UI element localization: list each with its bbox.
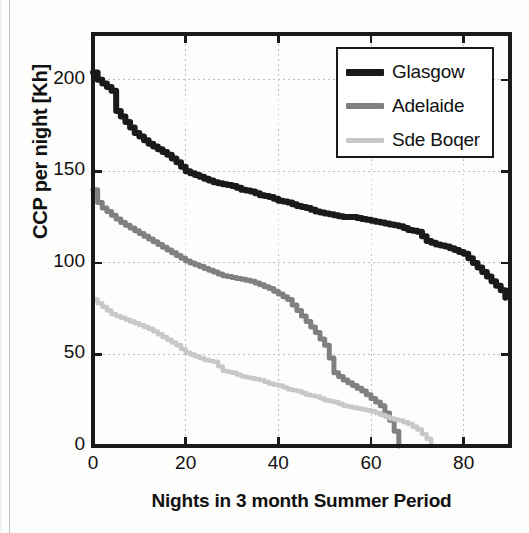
x-tick-label: 80 [439,452,489,474]
chart-legend: Glasgow Adelaide Sde Boqer [336,47,494,158]
legend-label-glasgow: Glasgow [392,61,465,83]
y-tick-label: 50 [64,341,85,363]
x-tick-label: 60 [346,452,396,474]
y-tick-label: 150 [53,158,85,180]
legend-swatch-sde-boqer [346,138,384,143]
x-tick-label: 0 [68,452,118,474]
x-tick-label: 20 [161,452,211,474]
x-tick-label: 40 [253,452,303,474]
legend-label-sde-boqer: Sde Boqer [392,129,480,151]
figure-root: 050100150200 020406080 CCP per night [Kh… [0,0,529,533]
legend-item-glasgow: Glasgow [346,57,488,87]
legend-item-sde-boqer: Sde Boqer [346,125,488,155]
legend-swatch-adelaide [346,103,384,109]
chart-figure: 050100150200 020406080 CCP per night [Kh… [0,0,529,533]
x-axis-title: Nights in 3 month Summer Period [93,490,510,512]
y-tick-label: 200 [53,67,85,89]
series-sde-boqer [93,300,431,446]
legend-label-adelaide: Adelaide [392,95,464,117]
legend-item-adelaide: Adelaide [346,91,488,121]
legend-swatch-glasgow [346,69,384,76]
y-axis-title: CCP per night [Kh] [29,32,52,272]
y-tick-label: 100 [53,250,85,272]
